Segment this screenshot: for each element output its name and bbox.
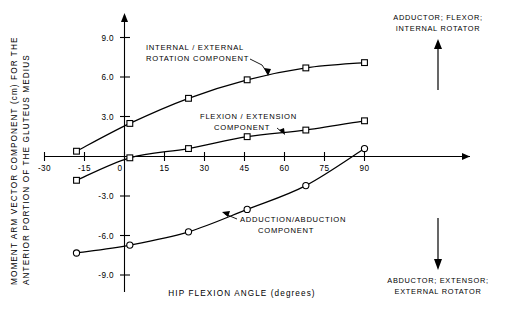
y-tick-label-1: 6.0 bbox=[101, 73, 114, 82]
axes-group: -30 -15 0 15 30 45 60 75 90 9.0 6.0 3.0 … bbox=[38, 13, 470, 292]
down-arrow-head bbox=[434, 259, 442, 270]
data-point bbox=[74, 177, 80, 183]
series-line-0 bbox=[77, 63, 365, 152]
figure-container: -30 -15 0 15 30 45 60 75 90 9.0 6.0 3.0 … bbox=[0, 0, 507, 318]
x-tick-label-7: 75 bbox=[320, 164, 330, 173]
up-direction-line1: ADDUCTOR; FLEXOR; bbox=[393, 13, 482, 22]
x-tick-label-5: 45 bbox=[240, 164, 250, 173]
data-point bbox=[362, 118, 368, 124]
data-point bbox=[127, 155, 133, 161]
data-point bbox=[244, 77, 250, 83]
x-tick-label-0: -30 bbox=[38, 164, 51, 173]
down-direction-line2: EXTERNAL ROTATOR bbox=[395, 287, 482, 296]
rotation-leader-line bbox=[250, 59, 268, 74]
chart-canvas: -30 -15 0 15 30 45 60 75 90 9.0 6.0 3.0 … bbox=[0, 0, 507, 318]
series-layer bbox=[73, 60, 367, 256]
x-tick-label-8: 90 bbox=[360, 164, 370, 173]
annotation-adduction: ADDUCTION/ABDUCTION COMPONENT bbox=[222, 211, 346, 235]
y-axis-title-line2: ANTERIOR PORTION OF THE GLUTEUS MEDIUS bbox=[22, 54, 31, 285]
y-axis-arrowhead bbox=[121, 13, 128, 22]
y-tick-label-4: -6.0 bbox=[98, 232, 114, 241]
rotation-annotation-line2: ROTATION COMPONENT bbox=[146, 54, 249, 63]
x-tick-label-2: 0 bbox=[118, 164, 123, 173]
up-arrow-head bbox=[434, 39, 442, 49]
data-point bbox=[244, 134, 250, 140]
annotation-rotation: INTERNAL / EXTERNAL ROTATION COMPONENT bbox=[146, 43, 271, 76]
direction-label-down: ABDUCTOR; EXTENSOR; EXTERNAL ROTATOR bbox=[387, 218, 488, 296]
data-point bbox=[303, 65, 309, 71]
flexion-leader-arrow bbox=[279, 128, 285, 135]
adduction-leader-arrow bbox=[222, 211, 230, 217]
data-point bbox=[303, 182, 309, 188]
y-tick-label-0: 9.0 bbox=[101, 34, 114, 43]
x-tick-label-1: -15 bbox=[78, 164, 91, 173]
x-tick-label-4: 30 bbox=[200, 164, 210, 173]
y-tick-label-5: -9.0 bbox=[98, 271, 114, 280]
adduction-annotation-line1: ADDUCTION/ABDUCTION bbox=[240, 215, 346, 224]
y-axis-title-line1: MOMENT ARM VECTOR COMPONENT (cm) FOR THE bbox=[10, 36, 19, 285]
flexion-annotation-line2: COMPONENT bbox=[214, 123, 270, 132]
x-tick-label-6: 60 bbox=[280, 164, 290, 173]
x-axis-title: HIP FLEXION ANGLE (degrees) bbox=[168, 289, 315, 298]
annotation-flexion: FLEXION / EXTENSION COMPONENT bbox=[200, 112, 297, 135]
data-point bbox=[303, 127, 309, 133]
data-point bbox=[127, 121, 133, 127]
data-point bbox=[361, 145, 367, 151]
x-axis-arrowhead bbox=[462, 153, 470, 160]
data-point bbox=[362, 60, 368, 66]
data-point bbox=[244, 206, 250, 212]
rotation-annotation-line1: INTERNAL / EXTERNAL bbox=[146, 43, 244, 52]
data-point bbox=[185, 229, 191, 235]
data-point bbox=[74, 148, 80, 154]
data-point bbox=[186, 146, 192, 152]
y-tick-label-3: -3.0 bbox=[98, 192, 114, 201]
y-axis-title: MOMENT ARM VECTOR COMPONENT (cm) FOR THE… bbox=[10, 36, 31, 285]
adduction-annotation-line2: COMPONENT bbox=[258, 226, 314, 235]
down-direction-line1: ABDUCTOR; EXTENSOR; bbox=[387, 276, 488, 285]
up-direction-line2: INTERNAL ROTATOR bbox=[396, 24, 480, 33]
flexion-annotation-line1: FLEXION / EXTENSION bbox=[200, 112, 297, 121]
y-tick-label-2: 3.0 bbox=[101, 113, 114, 122]
data-point bbox=[73, 250, 79, 256]
data-point bbox=[127, 242, 133, 248]
series-0 bbox=[74, 60, 368, 154]
x-tick-label-3: 15 bbox=[160, 164, 170, 173]
direction-label-up: ADDUCTOR; FLEXOR; INTERNAL ROTATOR bbox=[393, 13, 482, 90]
data-point bbox=[186, 95, 192, 101]
